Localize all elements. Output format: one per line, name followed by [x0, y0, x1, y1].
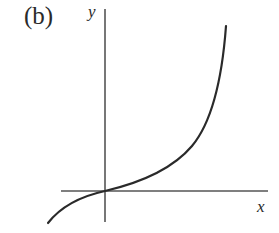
- plot-area: [0, 0, 279, 233]
- function-curve: [48, 26, 226, 223]
